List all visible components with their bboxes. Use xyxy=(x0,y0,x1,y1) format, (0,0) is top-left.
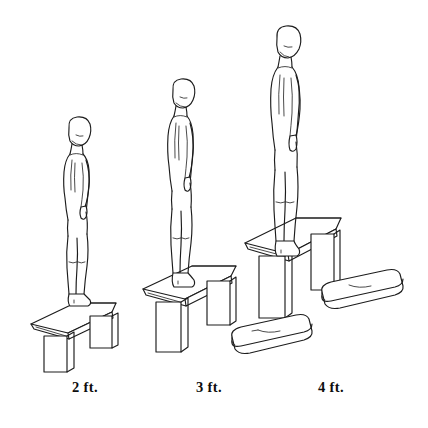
line-drawing xyxy=(0,0,428,428)
panel-4ft-group xyxy=(245,26,341,318)
panel-3ft-group xyxy=(143,79,236,352)
illustration-canvas: 2 ft. 3 ft. 4 ft. xyxy=(0,0,428,428)
caption-2ft: 2 ft. xyxy=(72,379,98,396)
person-3ft xyxy=(168,79,195,287)
person-2ft xyxy=(64,117,91,306)
caption-4ft: 4 ft. xyxy=(318,379,344,396)
panel-2ft-group xyxy=(31,117,118,372)
caption-3ft: 3 ft. xyxy=(196,379,222,396)
bench-low xyxy=(31,303,118,372)
mat-lower xyxy=(231,315,312,354)
